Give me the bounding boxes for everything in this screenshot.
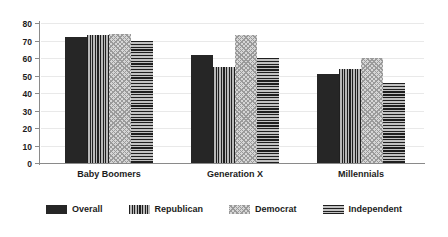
bar bbox=[87, 35, 109, 163]
bar bbox=[361, 58, 383, 163]
bar-group bbox=[191, 23, 279, 163]
legend-label: Overall bbox=[72, 205, 103, 214]
bar bbox=[317, 74, 339, 163]
legend-label: Democrat bbox=[255, 205, 297, 214]
legend-label: Republican bbox=[155, 205, 204, 214]
category-label: Millennials bbox=[297, 170, 425, 179]
legend-swatch-icon bbox=[46, 205, 67, 214]
bar bbox=[191, 55, 213, 164]
bar bbox=[257, 58, 279, 163]
bar bbox=[109, 34, 131, 164]
legend-swatch-icon bbox=[323, 205, 344, 214]
plot-area bbox=[41, 23, 424, 163]
category-label: Generation X bbox=[171, 170, 299, 179]
y-tick-label: 20 bbox=[0, 125, 32, 134]
legend-item[interactable]: Republican bbox=[129, 205, 204, 214]
y-tick-label: 60 bbox=[0, 55, 32, 64]
bar bbox=[339, 69, 361, 164]
y-axis-line bbox=[39, 21, 40, 165]
y-tick-label: 10 bbox=[0, 143, 32, 152]
bar-chart: 80 70 60 50 40 30 20 10 0 Baby BoomersGe… bbox=[0, 0, 448, 237]
legend-label: Independent bbox=[349, 205, 403, 214]
legend-item[interactable]: Overall bbox=[46, 205, 103, 214]
bar bbox=[383, 83, 405, 164]
bar bbox=[235, 35, 257, 163]
y-tick-label: 50 bbox=[0, 73, 32, 82]
bar bbox=[65, 37, 87, 163]
category-label: Baby Boomers bbox=[45, 170, 173, 179]
legend-swatch-icon bbox=[129, 205, 150, 214]
y-tick-label: 40 bbox=[0, 90, 32, 99]
bar bbox=[213, 67, 235, 163]
bar-group bbox=[317, 23, 405, 163]
x-axis-line bbox=[39, 163, 425, 164]
legend-swatch-icon bbox=[229, 205, 250, 214]
y-tick-label: 30 bbox=[0, 108, 32, 117]
legend-item[interactable]: Democrat bbox=[229, 205, 297, 214]
legend-item[interactable]: Independent bbox=[323, 205, 403, 214]
y-tick-label: 0 bbox=[0, 160, 32, 169]
chart-legend: OverallRepublicanDemocratIndependent bbox=[0, 205, 448, 214]
y-tick-label: 80 bbox=[0, 20, 32, 29]
y-tick-label: 70 bbox=[0, 38, 32, 47]
bar bbox=[131, 41, 153, 164]
bar-group bbox=[65, 23, 153, 163]
